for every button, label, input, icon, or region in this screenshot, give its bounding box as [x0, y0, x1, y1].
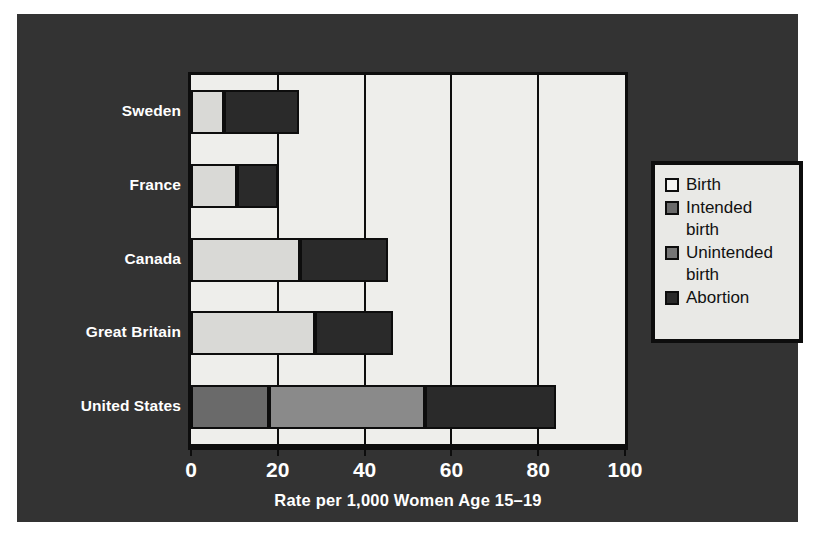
- legend-item: Abortion: [665, 287, 799, 309]
- x-tick-label: 60: [421, 458, 481, 482]
- x-tick-label: 20: [248, 458, 308, 482]
- plot-inner: [191, 75, 625, 444]
- legend-swatch-icon: [665, 291, 679, 305]
- x-tick-mark: [624, 447, 626, 456]
- bar-segment: [191, 311, 315, 355]
- legend-swatch-icon: [665, 201, 679, 215]
- bar-segment: [191, 238, 300, 282]
- legend-label: Intended birth: [686, 197, 752, 241]
- x-tick-label: 100: [595, 458, 655, 482]
- plot-area: [188, 72, 628, 447]
- bar-segment: [191, 90, 224, 134]
- legend-label: Birth: [686, 174, 721, 196]
- category-label: Canada: [21, 250, 181, 268]
- x-axis-line: [188, 447, 628, 450]
- bar-segment: [237, 164, 278, 208]
- legend-item: Intended birth: [665, 197, 799, 241]
- x-tick-mark: [450, 447, 452, 456]
- chart-legend: BirthIntended birthUnintended birthAbort…: [651, 161, 803, 343]
- legend-swatch-icon: [665, 178, 679, 192]
- bar-row: [191, 164, 625, 208]
- bar-segment: [315, 311, 393, 355]
- bar-row: [191, 385, 625, 429]
- legend-label: Unintended birth: [686, 242, 773, 286]
- legend-label: Abortion: [686, 287, 749, 309]
- chart-figure: SwedenFranceCanadaGreat BritainUnited St…: [0, 0, 816, 543]
- x-axis-title: Rate per 1,000 Women Age 15–19: [188, 491, 628, 510]
- category-label: United States: [21, 397, 181, 415]
- legend-item: Birth: [665, 174, 799, 196]
- category-label: Great Britain: [21, 323, 181, 341]
- legend-swatch-icon: [665, 246, 679, 260]
- bar-row: [191, 90, 625, 134]
- bar-segment: [300, 238, 389, 282]
- category-label: Sweden: [21, 102, 181, 120]
- x-tick-label: 80: [508, 458, 568, 482]
- x-tick-mark: [537, 447, 539, 456]
- x-tick-mark: [364, 447, 366, 456]
- x-tick-mark: [190, 447, 192, 456]
- bar-segment: [425, 385, 555, 429]
- x-tick-mark: [277, 447, 279, 456]
- legend-item: Unintended birth: [665, 242, 799, 286]
- x-tick-label: 0: [161, 458, 221, 482]
- bar-segment: [191, 385, 269, 429]
- bar-segment: [191, 164, 237, 208]
- bar-row: [191, 311, 625, 355]
- bar-segment: [224, 90, 300, 134]
- category-axis-labels: SwedenFranceCanadaGreat BritainUnited St…: [17, 72, 181, 447]
- x-tick-label: 40: [335, 458, 395, 482]
- chart-panel: SwedenFranceCanadaGreat BritainUnited St…: [17, 14, 798, 522]
- bar-segment: [269, 385, 425, 429]
- category-label: France: [21, 176, 181, 194]
- bar-row: [191, 238, 625, 282]
